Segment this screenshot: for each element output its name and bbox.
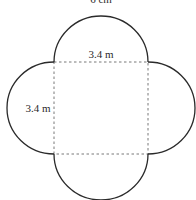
top-caption: 6 cm	[90, 0, 112, 5]
top-side-label: 3.4 m	[88, 48, 114, 60]
right-semicircle	[148, 62, 195, 154]
bottom-semicircle	[54, 154, 148, 200]
diagram-canvas: 6 cm 3.4 m 3.4 m	[0, 0, 196, 200]
dashed-square	[54, 62, 148, 154]
left-side-label: 3.4 m	[25, 102, 51, 114]
